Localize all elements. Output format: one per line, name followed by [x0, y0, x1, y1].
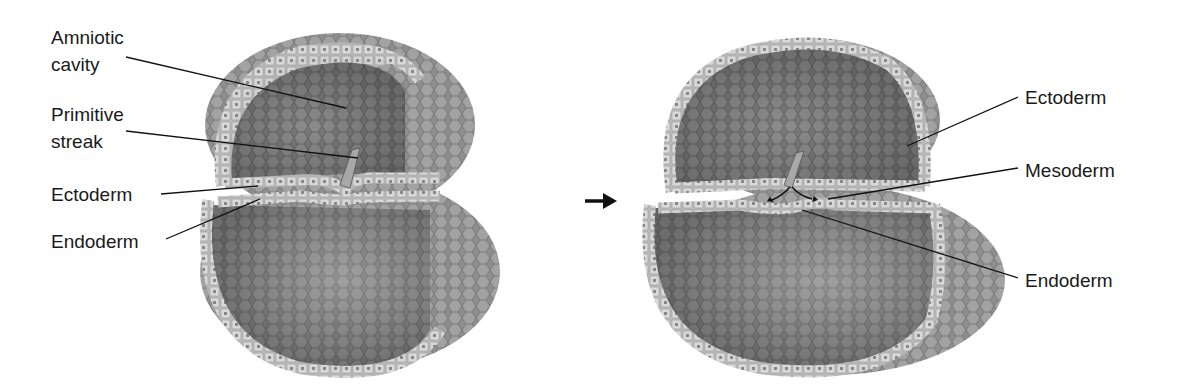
left-labels: Amniotic cavity Primitive streak Ectoder…: [51, 27, 139, 252]
label-mesoderm-right: Mesoderm: [1025, 160, 1115, 181]
label-endoderm-left: Endoderm: [51, 231, 139, 252]
label-endoderm-right: Endoderm: [1025, 270, 1113, 291]
leader-ectoderm-left: [161, 186, 258, 194]
right-labels: Ectoderm Mesoderm Endoderm: [1025, 87, 1115, 291]
label-ectoderm-left: Ectoderm: [51, 184, 132, 205]
label-ectoderm-right: Ectoderm: [1025, 87, 1106, 108]
left-embryo-illustration: [200, 33, 500, 372]
label-amniotic-cavity-line1: Amniotic: [51, 27, 124, 48]
label-primitive-streak-line2: streak: [51, 131, 103, 152]
gastrulation-diagram: Amniotic cavity Primitive streak Ectoder…: [0, 0, 1183, 386]
right-embryo-illustration: [648, 38, 1005, 375]
label-amniotic-cavity-line2: cavity: [51, 54, 100, 75]
transition-arrow-icon: [585, 193, 617, 209]
label-primitive-streak-line1: Primitive: [51, 104, 124, 125]
